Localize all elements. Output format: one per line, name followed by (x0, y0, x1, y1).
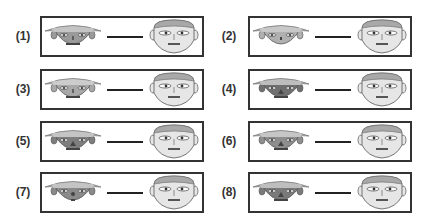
panel-label: (2) (214, 29, 244, 43)
connector-line (107, 192, 143, 194)
hat-face-icon (252, 22, 310, 56)
panel-label: (6) (214, 134, 244, 148)
hat-face-icon (252, 75, 310, 109)
hat-face-icon (252, 178, 310, 212)
hat-face-icon (44, 178, 102, 212)
plain-face-icon (356, 18, 408, 58)
plain-face-icon (356, 174, 408, 214)
panel-label: (1) (8, 29, 38, 43)
hat-face-icon (44, 75, 102, 109)
plain-face-icon (148, 71, 200, 111)
plain-face-icon (356, 123, 408, 163)
connector-line (315, 89, 351, 91)
connector-line (107, 141, 143, 143)
plain-face-icon (148, 123, 200, 163)
connector-line (315, 192, 351, 194)
plain-face-icon (148, 18, 200, 58)
panel-label: (3) (8, 82, 38, 96)
hat-face-icon (252, 127, 310, 161)
hat-face-icon (44, 22, 102, 56)
panel-label: (8) (214, 185, 244, 199)
hat-face-icon (44, 127, 102, 161)
panel-label: (5) (8, 134, 38, 148)
connector-line (107, 89, 143, 91)
connector-line (315, 36, 351, 38)
connector-line (315, 141, 351, 143)
panel-label: (7) (8, 185, 38, 199)
plain-face-icon (356, 71, 408, 111)
connector-line (107, 36, 143, 38)
panel-label: (4) (214, 82, 244, 96)
plain-face-icon (148, 174, 200, 214)
